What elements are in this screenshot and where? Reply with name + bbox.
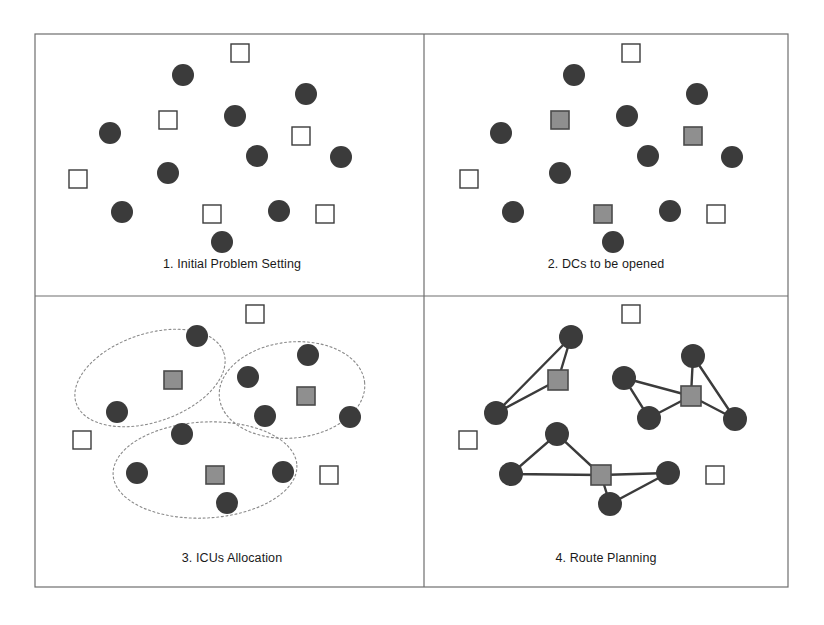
candidate-dc-square-1[interactable] [622,305,640,323]
panel-frame [35,34,788,587]
opened-dc-square-2[interactable] [551,111,569,129]
panel-label-3: 3. ICUs Allocation [182,551,282,565]
outer-frame [35,34,788,587]
panel-3: 3. ICUs Allocation [62,305,370,565]
opened-dc-square-2[interactable] [548,370,568,390]
candidate-dc-square-2[interactable] [159,111,177,129]
customer-node-6[interactable] [721,146,743,168]
panel-2: 2. DCs to be opened [460,44,743,271]
customer-node-9[interactable] [272,461,294,483]
candidate-dc-square-5[interactable] [203,205,221,223]
opened-dc-square-5[interactable] [206,466,224,484]
candidate-dc-square-6[interactable] [316,205,334,223]
customer-node-3[interactable] [612,366,636,390]
customer-node-3[interactable] [616,105,638,127]
customer-node-2[interactable] [686,83,708,105]
customer-node-4[interactable] [106,401,128,423]
customer-node-10[interactable] [216,492,238,514]
opened-dc-square-3[interactable] [681,386,701,406]
panel-label-1: 1. Initial Problem Setting [163,257,301,271]
cluster-ellipse-1 [62,311,238,445]
customer-node-1[interactable] [186,325,208,347]
customer-node-8[interactable] [499,462,523,486]
customer-node-5[interactable] [254,405,276,427]
customer-node-6[interactable] [330,146,352,168]
customer-node-1[interactable] [559,325,583,349]
candidate-dc-square-3[interactable] [292,127,310,145]
customer-node-3[interactable] [237,366,259,388]
customer-node-1[interactable] [563,64,585,86]
customer-node-3[interactable] [224,105,246,127]
customer-node-7[interactable] [157,162,179,184]
candidate-dc-square-6[interactable] [706,466,724,484]
panel-label-2: 2. DCs to be opened [548,257,665,271]
candidate-dc-square-4[interactable] [69,170,87,188]
customer-node-8[interactable] [126,462,148,484]
customer-node-2[interactable] [297,344,319,366]
customer-node-10[interactable] [602,231,624,253]
customer-node-5[interactable] [246,145,268,167]
panels-group: 1. Initial Problem Setting2. DCs to be o… [62,44,747,565]
customer-node-4[interactable] [484,401,508,425]
customer-node-2[interactable] [681,344,705,368]
panel-1: 1. Initial Problem Setting [69,44,352,271]
customer-node-1[interactable] [172,64,194,86]
opened-dc-square-5[interactable] [591,465,611,485]
customer-node-9[interactable] [268,200,290,222]
candidate-dc-square-1[interactable] [231,44,249,62]
customer-node-7[interactable] [545,422,569,446]
opened-dc-square-3[interactable] [684,127,702,145]
customer-node-9[interactable] [659,200,681,222]
panel-label-4: 4. Route Planning [555,551,656,565]
customer-node-7[interactable] [171,423,193,445]
customer-node-9[interactable] [656,461,680,485]
candidate-dc-square-4[interactable] [73,431,91,449]
customer-node-8[interactable] [502,201,524,223]
customer-node-6[interactable] [723,407,747,431]
candidate-dc-square-1[interactable] [246,305,264,323]
customer-node-2[interactable] [295,83,317,105]
customer-node-4[interactable] [99,122,121,144]
cluster-ellipse-2 [214,335,369,446]
candidate-dc-square-4[interactable] [459,431,477,449]
customer-node-6[interactable] [339,406,361,428]
panel-4: 4. Route Planning [459,305,747,565]
customer-node-10[interactable] [211,231,233,253]
customer-node-4[interactable] [490,122,512,144]
candidate-dc-square-4[interactable] [460,170,478,188]
customer-node-8[interactable] [111,201,133,223]
opened-dc-square-5[interactable] [594,205,612,223]
candidate-dc-square-6[interactable] [707,205,725,223]
candidate-dc-square-1[interactable] [622,44,640,62]
figure-container: 1. Initial Problem Setting2. DCs to be o… [0,0,824,625]
diagram-canvas: 1. Initial Problem Setting2. DCs to be o… [0,0,824,625]
customer-node-10[interactable] [598,492,622,516]
opened-dc-square-2[interactable] [164,371,182,389]
customer-node-5[interactable] [637,406,661,430]
candidate-dc-square-6[interactable] [320,466,338,484]
opened-dc-square-3[interactable] [297,387,315,405]
customer-node-7[interactable] [549,162,571,184]
customer-node-5[interactable] [637,145,659,167]
